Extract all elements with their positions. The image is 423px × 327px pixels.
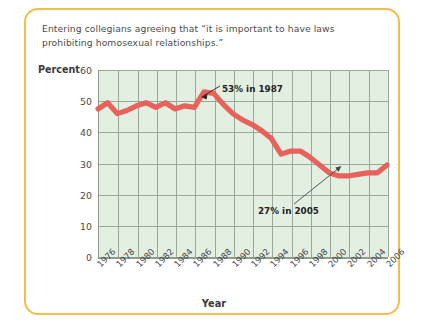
series-line-percent-agreeing bbox=[98, 92, 387, 176]
y-axis-tick-label: 60 bbox=[72, 65, 92, 76]
annotation-low-label: 27% in 2005 bbox=[258, 206, 319, 216]
y-axis-tick-labels: 6050403020100 bbox=[70, 70, 92, 257]
figure-card: Entering collegians agreeing that “it is… bbox=[24, 8, 400, 315]
series-layer bbox=[98, 70, 387, 257]
y-axis-tick-label: 50 bbox=[72, 96, 92, 107]
y-axis-tick-label: 40 bbox=[72, 127, 92, 138]
x-axis-title: Year bbox=[26, 298, 402, 309]
y-axis-tick-label: 30 bbox=[72, 158, 92, 169]
annotation-peak-label: 53% in 1987 bbox=[222, 84, 283, 94]
line-chart: Percent 6050403020100 53% in 1987 27% in… bbox=[26, 10, 402, 317]
x-axis-tick-labels: 1976197819801982198419861988199019921994… bbox=[98, 262, 398, 302]
y-axis-tick-label: 10 bbox=[72, 220, 92, 231]
y-axis-tick-label: 20 bbox=[72, 189, 92, 200]
y-axis-tick-label: 0 bbox=[72, 252, 92, 263]
